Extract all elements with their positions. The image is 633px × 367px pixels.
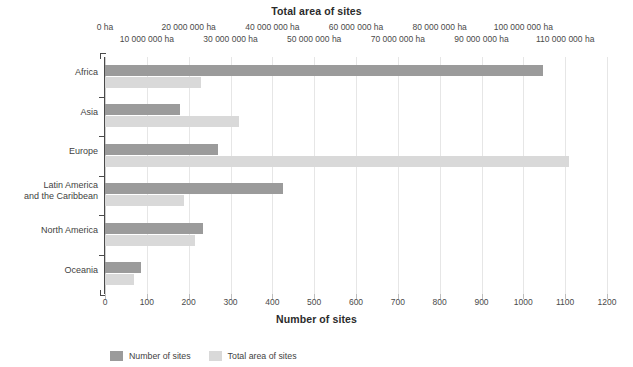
bar-total-area-of-sites — [105, 274, 134, 285]
chart-legend: Number of sitesTotal area of sites — [110, 349, 297, 363]
category-label-line: Oceania — [0, 265, 98, 277]
legend-item[interactable]: Total area of sites — [209, 351, 297, 361]
gridline — [189, 57, 190, 294]
bottom-tick — [398, 294, 399, 299]
bottom-tick — [314, 294, 315, 299]
top-tick-label: 10 000 000 ha — [120, 34, 174, 44]
bottom-tick — [565, 294, 566, 299]
bar-number-of-sites — [105, 144, 218, 155]
gridline — [356, 57, 357, 294]
top-tick-label: 80 000 000 ha — [412, 22, 466, 32]
top-tick-label: 40 000 000 ha — [245, 22, 299, 32]
gridline — [482, 57, 483, 294]
category-label: Africa — [0, 67, 98, 79]
category-tick — [99, 176, 105, 177]
legend-label: Number of sites — [129, 351, 191, 361]
category-label-line: Africa — [0, 67, 98, 79]
bottom-tick — [147, 294, 148, 299]
bar-total-area-of-sites — [105, 156, 569, 167]
category-tick — [99, 97, 105, 98]
plot-area — [105, 57, 607, 294]
gridline — [147, 57, 148, 294]
gridline — [607, 57, 608, 294]
gridline — [105, 57, 106, 294]
category-label: North America — [0, 225, 98, 237]
bar-number-of-sites — [105, 223, 203, 234]
gridline — [272, 57, 273, 294]
category-axis-labels: AfricaAsiaEuropeLatin Americaand the Car… — [0, 57, 98, 294]
category-tick — [99, 136, 105, 137]
top-tick-label: 70 000 000 ha — [371, 34, 425, 44]
category-label-line: Asia — [0, 107, 98, 119]
top-tick-label: 90 000 000 ha — [454, 34, 508, 44]
category-label: Europe — [0, 146, 98, 158]
gridline — [398, 57, 399, 294]
bar-total-area-of-sites — [105, 235, 195, 246]
legend-item[interactable]: Number of sites — [110, 351, 191, 361]
bottom-tick — [272, 294, 273, 299]
top-tick-label: 30 000 000 ha — [203, 34, 257, 44]
bar-number-of-sites — [105, 65, 543, 76]
top-tick-label: 0 ha — [97, 22, 114, 32]
bottom-tick — [231, 294, 232, 299]
bottom-tick — [189, 294, 190, 299]
category-tick — [99, 215, 105, 216]
gridline — [523, 57, 524, 294]
category-label-line: Latin America — [0, 180, 98, 192]
bottom-axis-tick-labels: 0100200300400500600700800900100011001200 — [0, 297, 633, 311]
category-label-line: Europe — [0, 146, 98, 158]
top-tick-label: 100 000 000 ha — [494, 22, 553, 32]
bar-total-area-of-sites — [105, 116, 239, 127]
top-tick-label: 20 000 000 ha — [161, 22, 215, 32]
bottom-tick — [607, 294, 608, 299]
top-tick-label: 50 000 000 ha — [287, 34, 341, 44]
legend-swatch — [110, 351, 123, 361]
gridline — [440, 57, 441, 294]
category-label-line: and the Caribbean — [0, 191, 98, 203]
bottom-tick — [105, 294, 106, 299]
category-tick — [99, 255, 105, 256]
bar-number-of-sites — [105, 104, 180, 115]
bottom-axis-title: Number of sites — [0, 313, 633, 325]
category-label-line: North America — [0, 225, 98, 237]
chart-container: Total area of sites 0 ha10 000 000 ha20 … — [0, 0, 633, 367]
bar-number-of-sites — [105, 262, 141, 273]
bottom-tick — [356, 294, 357, 299]
bar-total-area-of-sites — [105, 195, 184, 206]
category-label: Oceania — [0, 265, 98, 277]
category-label: Asia — [0, 107, 98, 119]
gridline — [314, 57, 315, 294]
gridline — [565, 57, 566, 294]
bottom-tick — [523, 294, 524, 299]
bar-total-area-of-sites — [105, 77, 201, 88]
bottom-tick — [482, 294, 483, 299]
legend-swatch — [209, 351, 222, 361]
gridline — [231, 57, 232, 294]
top-tick-label: 110 000 000 ha — [536, 34, 594, 44]
top-tick-label: 60 000 000 ha — [329, 22, 383, 32]
category-label: Latin Americaand the Caribbean — [0, 180, 98, 203]
top-axis-tick-labels: 0 ha10 000 000 ha20 000 000 ha30 000 000… — [0, 22, 633, 48]
bottom-tick — [440, 294, 441, 299]
top-axis-title: Total area of sites — [0, 5, 633, 17]
bar-number-of-sites — [105, 183, 283, 194]
legend-label: Total area of sites — [228, 351, 297, 361]
